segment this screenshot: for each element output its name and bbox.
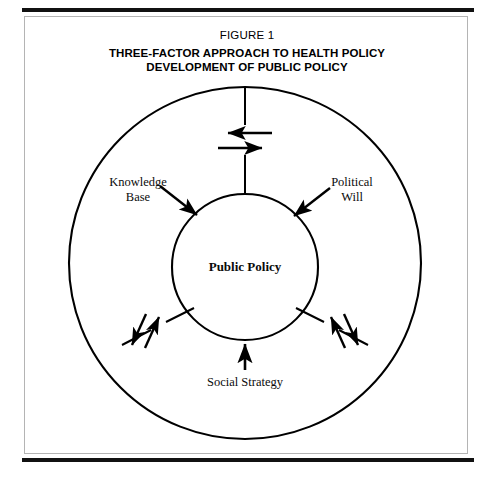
connector-lower-left-arrow-down xyxy=(132,314,146,345)
connector-lower-left xyxy=(122,308,194,348)
knowledge-base-label-line-2: Base xyxy=(126,190,151,204)
factor-social-strategy: Social Strategy xyxy=(207,344,284,389)
factor-political-will: Political Will xyxy=(294,175,373,216)
connector-lower-right xyxy=(296,308,368,348)
center-node-label: Public Policy xyxy=(209,259,282,274)
social-strategy-label: Social Strategy xyxy=(207,375,284,389)
political-will-label-line-2: Will xyxy=(341,190,363,204)
knowledge-base-label-line-1: Knowledge xyxy=(109,175,167,189)
factor-knowledge-base: Knowledge Base xyxy=(109,175,197,215)
figure-page: FIGURE 1 THREE-FACTOR APPROACH TO HEALTH… xyxy=(0,0,493,486)
diagram-canvas: Public Policy Knowledge Base xyxy=(0,0,493,486)
connector-lower-right-arrow-down xyxy=(344,314,358,345)
knowledge-base-arrow xyxy=(160,186,197,215)
political-will-arrow xyxy=(294,188,330,216)
connector-top xyxy=(218,88,272,194)
political-will-label-line-1: Political xyxy=(331,175,373,189)
